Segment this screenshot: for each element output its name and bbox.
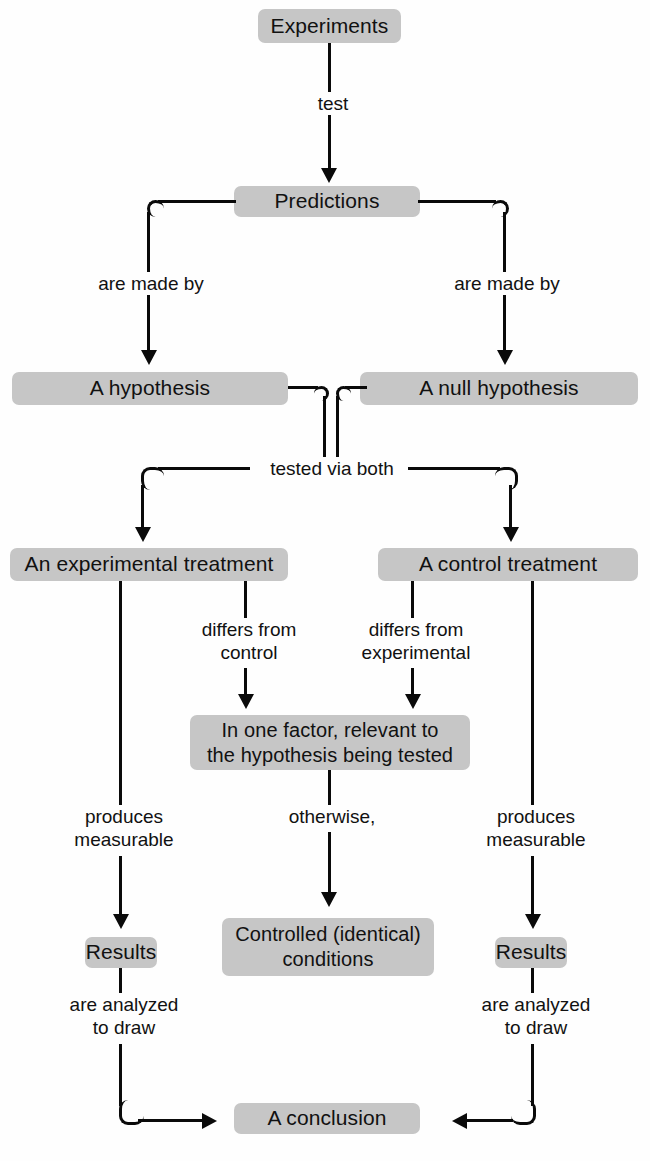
node-null-hypothesis: A null hypothesis (360, 372, 638, 405)
edge-tested-right-v (509, 485, 512, 529)
arrowhead-to-one-factor-right (405, 694, 421, 709)
arrowhead-to-experimental-treatment (135, 527, 151, 542)
arrowhead-to-results-left (113, 914, 129, 929)
edge-control-to-results-v (531, 581, 534, 811)
arrowhead-to-control-treatment (503, 527, 519, 542)
edge-label-are-made-by-right: are made by (448, 272, 566, 295)
edge-label-differs-from-experimental: differs from experimental (348, 618, 484, 664)
edge-results-right-v2 (531, 1044, 534, 1106)
edge-differs-from-experimental-v (411, 581, 414, 621)
edge-differs-from-control-v2 (244, 668, 247, 696)
edge-label-are-analyzed-right: are analyzed to draw (469, 993, 603, 1039)
node-hypothesis: A hypothesis (12, 372, 288, 405)
arrowhead-to-results-right (525, 914, 541, 929)
edge-differs-from-experimental-v2 (411, 668, 414, 696)
arrowhead-to-predictions (321, 168, 337, 183)
edge-label-tested-via-both: tested via both (249, 457, 415, 480)
edge-results-right-to-conclusion-h (467, 1119, 513, 1122)
edge-results-right-v (531, 968, 534, 996)
node-predictions: Predictions (234, 186, 420, 217)
elbow-results-right (511, 1100, 536, 1125)
arrowhead-to-one-factor-left (238, 694, 254, 709)
elbow-predictions-right (492, 200, 509, 217)
edge-otherwise-v (328, 770, 331, 808)
arrowhead-to-null-hypothesis (497, 350, 513, 365)
flowchart-canvas: Experiments test Predictions are made by… (0, 0, 650, 1161)
elbow-hypothesis (314, 386, 329, 401)
elbow-tested-left (141, 467, 164, 490)
node-controlled-conditions: Controlled (identical) conditions (222, 918, 434, 976)
arrowhead-conclusion-left (202, 1113, 217, 1129)
arrowhead-to-controlled-conditions (321, 892, 337, 907)
edge-hypothesis-h (288, 386, 318, 389)
edge-label-produces-measurable-left: produces measurable (62, 805, 186, 851)
node-experiments: Experiments (258, 9, 401, 43)
node-results-right: Results (495, 937, 567, 968)
edge-label-produces-measurable-right: produces measurable (474, 805, 598, 851)
edge-tested-left-v (141, 485, 144, 529)
edge-control-to-results-v2 (531, 856, 534, 916)
edge-predictions-left-h (158, 200, 236, 203)
node-results-left: Results (85, 937, 157, 968)
edge-tested-left-h (158, 467, 250, 470)
edge-differs-from-control-v (244, 581, 247, 621)
edge-label-otherwise: otherwise, (282, 805, 382, 828)
edge-results-left-v2 (119, 1044, 122, 1106)
elbow-tested-right (495, 467, 518, 490)
node-one-factor: In one factor, relevant to the hypothesi… (190, 715, 470, 770)
edge-experimental-to-results-v2 (119, 856, 122, 916)
arrowhead-conclusion-right (452, 1113, 467, 1129)
edge-predictions-right-h (418, 200, 496, 203)
node-control-treatment: A control treatment (378, 548, 638, 581)
edge-label-test: test (300, 92, 366, 115)
edge-results-left-v (119, 968, 122, 996)
edge-tested-right-h (408, 467, 500, 470)
edge-results-left-to-conclusion-h (138, 1119, 204, 1122)
edge-label-are-made-by-left: are made by (92, 272, 210, 295)
node-conclusion: A conclusion (234, 1103, 420, 1134)
edge-experimental-to-results-v (119, 581, 122, 811)
edge-label-differs-from-control: differs from control (188, 618, 310, 664)
node-experimental-treatment: An experimental treatment (10, 548, 288, 581)
edge-otherwise-v2 (328, 832, 331, 894)
edge-label-are-analyzed-left: are analyzed to draw (57, 993, 191, 1039)
arrowhead-to-hypothesis (141, 350, 157, 365)
